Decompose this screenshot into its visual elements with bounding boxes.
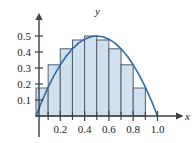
riemann-bar bbox=[48, 65, 60, 116]
x-axis-tick-label: 0.2 bbox=[53, 123, 67, 135]
riemann-sum-chart: 0.10.20.30.40.5 0.20.40.60.81.0 y x bbox=[0, 0, 192, 143]
riemann-bar bbox=[85, 36, 97, 116]
y-axis-tick-label: 0.5 bbox=[17, 30, 31, 42]
x-axis-tick-label: 0.8 bbox=[126, 123, 140, 135]
x-axis-tick-label: 0.4 bbox=[78, 123, 92, 135]
riemann-bar bbox=[60, 49, 72, 116]
riemann-bar bbox=[133, 88, 145, 116]
y-axis-tick-label: 0.4 bbox=[17, 46, 31, 58]
riemann-bar bbox=[109, 49, 121, 116]
x-axis-tick-label: 0.6 bbox=[102, 123, 116, 135]
riemann-bar bbox=[97, 40, 109, 116]
y-axis-tick-label: 0.1 bbox=[17, 94, 31, 106]
y-axis-tick-labels: 0.10.20.30.40.5 bbox=[17, 30, 31, 106]
y-axis-label: y bbox=[94, 5, 100, 17]
x-axis-tick-label: 1.0 bbox=[151, 123, 165, 135]
y-axis-tick-label: 0.2 bbox=[17, 78, 31, 90]
riemann-bar bbox=[121, 65, 133, 116]
y-axis-tick-label: 0.3 bbox=[17, 62, 31, 74]
chart-canvas: 0.10.20.30.40.5 0.20.40.60.81.0 y x bbox=[0, 0, 192, 143]
riemann-bar bbox=[72, 40, 84, 116]
x-axis-label: x bbox=[184, 110, 190, 122]
